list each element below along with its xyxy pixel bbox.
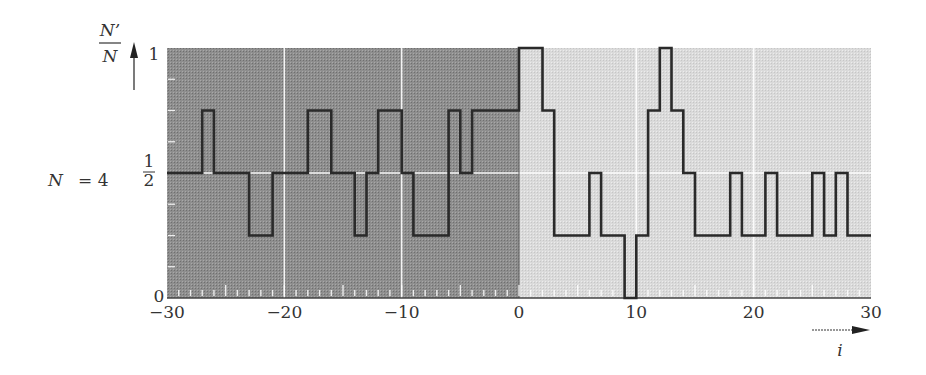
x-tick-label: 20: [743, 302, 765, 322]
x-tick-label: 10: [626, 302, 648, 322]
annotation-n-equals-4: N = 4: [47, 170, 108, 190]
x-tick-labels: −30−20−100102030: [149, 302, 882, 322]
y-tick-1: 1: [149, 44, 160, 64]
y-label-denominator: N: [102, 46, 119, 66]
x-tick-label: −10: [384, 302, 420, 322]
svg-text:1: 1: [144, 151, 155, 171]
step-chart: N’ N 1 1 2 0 N = 4 −30−20−100102030 i: [0, 0, 926, 375]
y-axis-label: N’ N: [99, 20, 121, 66]
y-label-numerator: N’: [99, 20, 120, 40]
x-tick-label: −30: [149, 302, 185, 322]
x-tick-label: 0: [514, 302, 525, 322]
x-axis-arrow-icon: [812, 326, 870, 334]
svg-text:= 4: = 4: [78, 170, 108, 190]
svg-text:2: 2: [144, 170, 155, 190]
x-axis-label: i: [837, 340, 842, 360]
svg-text:N: N: [47, 170, 64, 190]
x-tick-label: −20: [266, 302, 302, 322]
x-tick-label: 30: [860, 302, 882, 322]
y-axis-arrow-icon: [130, 42, 138, 90]
y-tick-half: 1 2: [143, 151, 155, 190]
